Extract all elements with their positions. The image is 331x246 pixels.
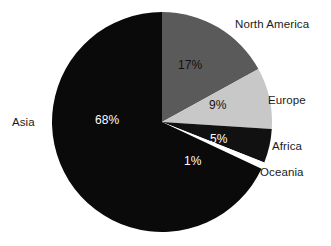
pie-value-europe: 9% xyxy=(209,98,227,112)
pie-label-africa: Africa xyxy=(272,140,302,152)
pie-value-asia: 68% xyxy=(95,113,119,127)
pie-label-oceania: Oceania xyxy=(260,166,304,178)
pie-label-europe: Europe xyxy=(268,94,306,106)
pie-value-africa: 5% xyxy=(210,132,228,146)
pie-label-north-america: North America xyxy=(235,18,309,30)
pie-chart-canvas xyxy=(0,0,331,246)
pie-label-asia: Asia xyxy=(12,116,35,128)
pie-value-oceania: 1% xyxy=(184,154,202,168)
pie-value-north-america: 17% xyxy=(178,58,202,72)
pie-slices xyxy=(52,12,272,232)
pie-chart: North America Europe Africa Oceania Asia… xyxy=(0,0,331,246)
